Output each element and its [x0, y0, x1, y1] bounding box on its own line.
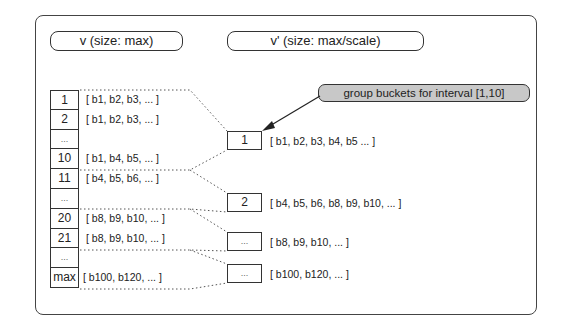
- connector-lines: [0, 0, 573, 329]
